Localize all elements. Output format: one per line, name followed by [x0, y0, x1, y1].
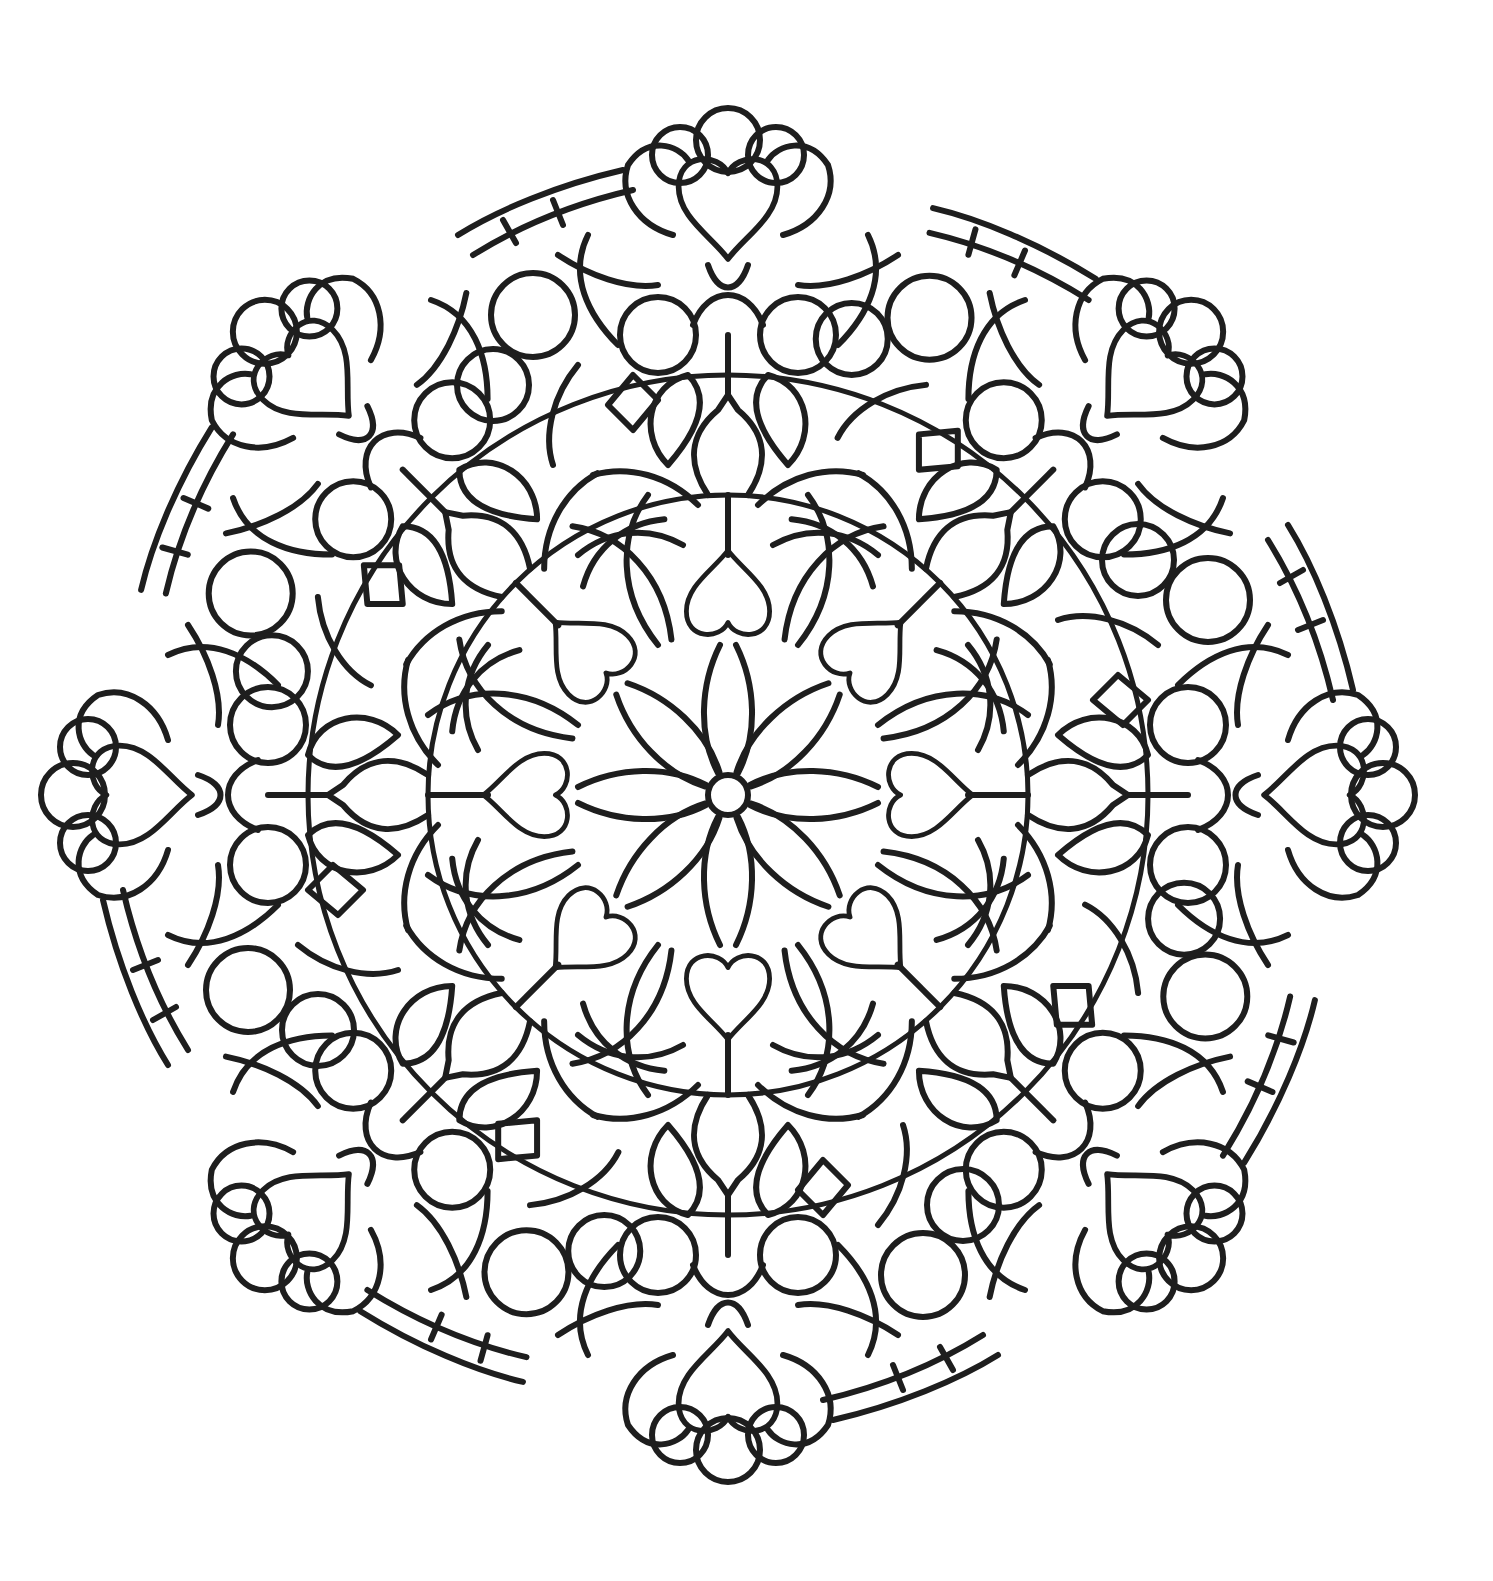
mandala-drawing: [0, 0, 1493, 1581]
center-circle: [708, 775, 748, 815]
mandala: [41, 108, 1415, 1482]
